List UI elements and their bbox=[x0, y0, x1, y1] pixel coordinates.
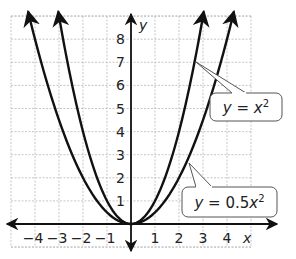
y-tick-label: 7 bbox=[116, 54, 125, 70]
parabola-graph: −4−3−2−1123412345678xy y = x2y = 0.5x2 bbox=[0, 0, 296, 259]
y-tick-label: 1 bbox=[116, 193, 125, 209]
callout-y-equals-half-x-squared: y = 0.5x2 bbox=[182, 163, 277, 217]
y-axis-label: y bbox=[138, 17, 148, 33]
y-tick-label: 2 bbox=[116, 170, 125, 186]
y-tick-label: 6 bbox=[116, 77, 125, 93]
x-axis-label: x bbox=[242, 230, 252, 246]
x-tick-label: −1 bbox=[95, 230, 116, 246]
svg-text:y = 0.5x2: y = 0.5x2 bbox=[193, 193, 264, 212]
y-tick-label: 5 bbox=[116, 101, 125, 117]
x-tick-label: 3 bbox=[199, 230, 208, 246]
x-tick-label: 2 bbox=[175, 230, 184, 246]
y-tick-label: 8 bbox=[116, 31, 125, 47]
x-tick-label: −2 bbox=[71, 230, 92, 246]
y-tick-label: 4 bbox=[116, 124, 125, 140]
y-tick-label: 3 bbox=[116, 147, 125, 163]
x-tick-label: −3 bbox=[47, 230, 68, 246]
svg-text:y = x2: y = x2 bbox=[222, 98, 269, 117]
x-tick-label: 1 bbox=[151, 230, 160, 246]
x-tick-label: −4 bbox=[23, 230, 44, 246]
x-tick-label: 4 bbox=[223, 230, 232, 246]
callout-y-equals-x-squared: y = x2 bbox=[196, 62, 282, 121]
